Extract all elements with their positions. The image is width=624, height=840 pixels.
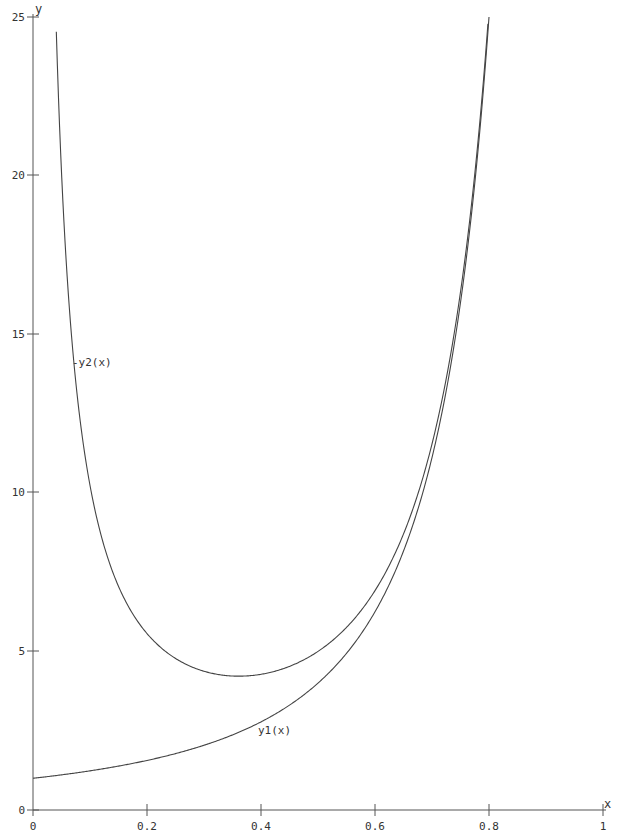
curve-label-y1: y1(x) (258, 724, 291, 737)
y-tick-label: 5 (18, 645, 25, 658)
y-axis-label: y (35, 2, 42, 16)
chart: 0 0.2 0.4 0.6 0.8 1 0 5 10 15 20 25 y x … (0, 0, 624, 840)
x-tick-label: 1 (600, 820, 607, 833)
y-tick-label: 20 (12, 169, 25, 182)
x-tick-label: 0.2 (137, 820, 157, 833)
x-tick-label: 0.8 (479, 820, 499, 833)
y-tick-label: 15 (12, 328, 25, 341)
y-tick-label: 25 (12, 11, 25, 24)
y-tick-label: 0 (18, 804, 25, 817)
curve-y1 (33, 17, 489, 778)
y-tick-label: 10 (12, 486, 25, 499)
curve-label-y2: -y2(x) (72, 356, 112, 369)
y-ticks: 0 5 10 15 20 25 (12, 11, 39, 817)
curve-neg-y2 (56, 24, 488, 676)
x-tick-label: 0.6 (365, 820, 385, 833)
x-ticks: 0 0.2 0.4 0.6 0.8 1 (30, 804, 607, 833)
x-tick-label: 0 (30, 820, 37, 833)
x-axis-label: x (604, 797, 611, 811)
x-tick-label: 0.4 (251, 820, 271, 833)
